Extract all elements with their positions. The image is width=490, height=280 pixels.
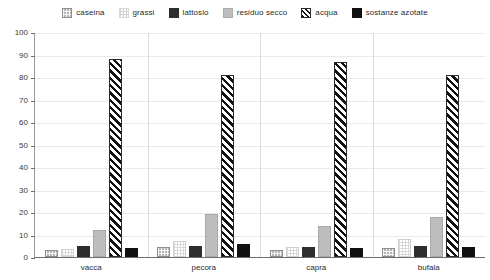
y-tick-label: 70 xyxy=(19,97,28,105)
bar-capra-acqua[interactable] xyxy=(334,62,347,257)
bar-capra-sostanze-azotate[interactable] xyxy=(350,248,363,257)
legend-item-sostanze-azotate[interactable]: sostanze azotate xyxy=(352,8,428,18)
bar-group-bufala: bufala xyxy=(373,33,486,257)
bar-groups: vaccapecoracaprabufala xyxy=(35,33,485,257)
y-tick-label: 30 xyxy=(19,187,28,195)
y-tick-label: 60 xyxy=(19,119,28,127)
bar-pecora-sostanze-azotate[interactable] xyxy=(237,244,250,258)
bar-bufala-caseina[interactable] xyxy=(382,248,395,257)
bar-bufala-residuo-secco[interactable] xyxy=(430,217,443,258)
legend-swatch-icon xyxy=(169,8,179,18)
bar-vacca-caseina[interactable] xyxy=(45,250,58,257)
bar-group-vacca: vacca xyxy=(35,33,148,257)
y-tick-label: 40 xyxy=(19,164,28,172)
bar-bufala-acqua[interactable] xyxy=(446,75,459,257)
bar-bufala-grassi[interactable] xyxy=(398,239,411,257)
y-tick-label: 100 xyxy=(15,29,28,37)
legend-swatch-icon xyxy=(301,8,311,18)
y-tick-label: 50 xyxy=(19,142,28,150)
bar-pecora-grassi[interactable] xyxy=(173,241,186,257)
bar-capra-lattosio[interactable] xyxy=(302,247,315,257)
bar-capra-grassi[interactable] xyxy=(286,247,299,257)
legend-label: grassi xyxy=(133,9,155,17)
bar-pecora-lattosio[interactable] xyxy=(189,246,202,257)
bar-group-capra: capra xyxy=(260,33,373,257)
legend-label: acqua xyxy=(315,9,337,17)
legend-item-caseina[interactable]: caseina xyxy=(62,8,104,18)
x-axis-label-pecora: pecora xyxy=(148,257,261,272)
x-axis-label-vacca: vacca xyxy=(35,257,148,272)
x-axis-label-bufala: bufala xyxy=(373,257,486,272)
legend-item-residuo-secco[interactable]: residuo secco xyxy=(223,8,288,18)
plot-area: 0102030405060708090100 vaccapecoracaprab… xyxy=(34,33,485,258)
bar-bufala-sostanze-azotate[interactable] xyxy=(462,247,475,257)
legend-label: sostanze azotate xyxy=(366,9,428,17)
bar-bufala-lattosio[interactable] xyxy=(414,246,427,257)
bar-capra-residuo-secco[interactable] xyxy=(318,226,331,258)
legend-swatch-icon xyxy=(352,8,362,18)
x-axis-label-capra: capra xyxy=(260,257,373,272)
legend-label: lattosio xyxy=(183,9,209,17)
legend-label: residuo secco xyxy=(237,9,288,17)
bar-vacca-grassi[interactable] xyxy=(61,249,74,257)
y-tick-label: 80 xyxy=(19,74,28,82)
bar-vacca-sostanze-azotate[interactable] xyxy=(125,248,138,257)
legend-swatch-icon xyxy=(223,8,233,18)
bar-pecora-acqua[interactable] xyxy=(221,75,234,257)
chart-legend: caseinagrassilattosioresiduo seccoacquas… xyxy=(0,6,490,20)
legend-label: caseina xyxy=(76,9,104,17)
bar-group-pecora: pecora xyxy=(148,33,261,257)
bar-pecora-caseina[interactable] xyxy=(157,247,170,257)
bar-vacca-acqua[interactable] xyxy=(109,59,122,257)
bar-chart: caseinagrassilattosioresiduo seccoacquas… xyxy=(0,0,490,280)
legend-item-acqua[interactable]: acqua xyxy=(301,8,337,18)
bar-vacca-residuo-secco[interactable] xyxy=(93,230,106,257)
bar-pecora-residuo-secco[interactable] xyxy=(205,214,218,257)
legend-swatch-icon xyxy=(62,8,72,18)
legend-item-lattosio[interactable]: lattosio xyxy=(169,8,209,18)
y-tick-label: 20 xyxy=(19,209,28,217)
legend-item-grassi[interactable]: grassi xyxy=(119,8,155,18)
y-tick-label: 0 xyxy=(24,254,28,262)
bar-capra-caseina[interactable] xyxy=(270,250,283,257)
y-tick-label: 10 xyxy=(19,232,28,240)
y-tick-label: 90 xyxy=(19,52,28,60)
bar-vacca-lattosio[interactable] xyxy=(77,246,90,257)
legend-swatch-icon xyxy=(119,8,129,18)
